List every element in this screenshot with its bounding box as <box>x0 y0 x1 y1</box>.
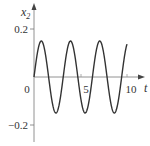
origin-label: 0 <box>24 83 30 95</box>
y-tick-label-0.2: 0.2 <box>14 23 28 35</box>
x-axis-arrow-icon <box>138 75 145 80</box>
chart: x2 t 0.2 −0.2 0 5 10 <box>0 0 150 146</box>
y-tick-label-neg0.2: −0.2 <box>8 119 28 131</box>
x-tick-label-10: 10 <box>126 83 138 95</box>
x-axis-label: t <box>144 81 148 95</box>
y-axis-arrow-icon <box>32 3 37 10</box>
x-tick-label-5: 5 <box>83 83 89 95</box>
y-axis-label: x2 <box>20 5 30 21</box>
